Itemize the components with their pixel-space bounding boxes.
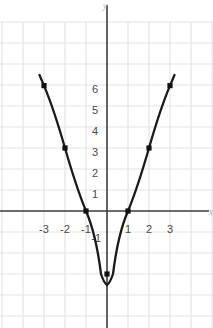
x-tick-label-neg3: -3 bbox=[39, 223, 49, 235]
data-point-marker bbox=[62, 145, 67, 150]
y-tick-label-2: 2 bbox=[92, 167, 98, 179]
parabola-graph: y x -3 -2 -1 1 2 3 6 5 4 3 2 1 -1 bbox=[0, 0, 213, 328]
y-tick-label-6: 6 bbox=[92, 83, 98, 95]
x-tick-label-neg2: -2 bbox=[60, 223, 70, 235]
data-point-marker bbox=[41, 83, 46, 88]
y-tick-label-1: 1 bbox=[92, 188, 98, 200]
x-axis-label: x bbox=[208, 206, 213, 217]
data-point-marker bbox=[146, 145, 151, 150]
x-tick-label-3: 3 bbox=[167, 223, 173, 235]
y-tick-label-5: 5 bbox=[92, 104, 98, 116]
data-point-marker bbox=[83, 208, 88, 213]
y-tick-label-3: 3 bbox=[92, 146, 98, 158]
graph-canvas: y x -3 -2 -1 1 2 3 6 5 4 3 2 1 -1 bbox=[0, 0, 213, 328]
y-axis-label: y bbox=[102, 0, 108, 11]
x-tick-label-1: 1 bbox=[125, 223, 131, 235]
x-tick-label-2: 2 bbox=[146, 223, 152, 235]
data-point-marker bbox=[167, 83, 172, 88]
x-tick-label-neg1: -1 bbox=[81, 223, 91, 235]
y-tick-label-4: 4 bbox=[92, 125, 98, 137]
data-point-marker bbox=[125, 208, 130, 213]
data-point-marker bbox=[104, 271, 109, 276]
